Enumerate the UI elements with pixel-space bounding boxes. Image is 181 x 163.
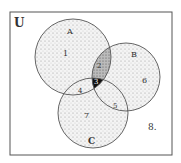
set-b-label: B [131,50,137,59]
region-7-label: 7 [84,111,89,120]
set-a-label: A [66,27,73,36]
region-3-label: 3 [94,78,98,86]
venn-diagram: U A B C 1 2 3 4 5 6 7 8. [0,0,181,163]
region-5-label: 5 [113,102,117,110]
universe-label: U [14,16,25,30]
set-c-label: C [88,136,95,146]
region-6-label: 6 [142,76,147,85]
region-8-label: 8. [148,122,157,132]
region-2-label: 2 [97,62,101,70]
region-1-label: 1 [63,49,68,58]
region-4-label: 4 [78,87,83,95]
